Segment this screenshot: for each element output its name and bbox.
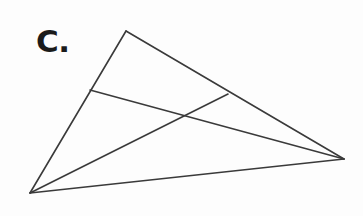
figure-canvas: C. xyxy=(0,0,363,216)
side-apex-to-right xyxy=(126,31,344,159)
side-bottom-left-to-right xyxy=(30,159,344,193)
segment-group xyxy=(30,31,344,193)
figure-label: C. xyxy=(36,26,70,57)
